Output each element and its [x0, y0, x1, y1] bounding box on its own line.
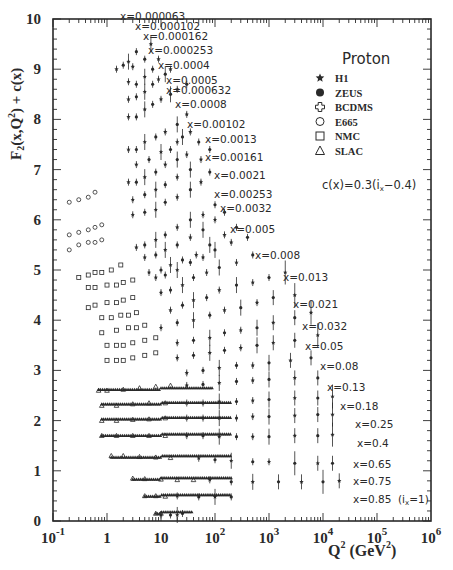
zeus-point — [201, 369, 204, 372]
nmc-point — [143, 338, 147, 342]
series-label: x=0.008 — [255, 249, 300, 261]
zeus-point — [251, 253, 254, 256]
nmc-point — [109, 268, 113, 272]
legend-label: NMC — [335, 131, 360, 142]
zeus-point — [181, 135, 184, 138]
zeus-point — [213, 248, 216, 251]
zeus-point — [246, 236, 249, 239]
zeus-point — [235, 283, 238, 286]
zeus-point — [147, 158, 150, 161]
zeus-point — [151, 68, 154, 71]
x-tick-label: 102 — [205, 525, 226, 546]
series-label: x=0.05 — [305, 340, 343, 352]
zeus-point — [151, 103, 154, 106]
zeus-point — [122, 64, 125, 67]
nmc-point — [154, 351, 158, 355]
legend: ProtonH1ZEUSBCDMSE665NMCSLACc(x)=0.3(ix−… — [316, 50, 417, 193]
zeus-point — [135, 148, 138, 151]
series-label: x=0.00161 — [205, 151, 263, 163]
e665-point — [86, 195, 90, 199]
zeus-point — [277, 480, 280, 483]
y-tick-label: 0 — [34, 513, 42, 529]
nmc-point — [134, 326, 138, 330]
zeus-point — [197, 140, 200, 143]
zeus-point — [267, 276, 270, 279]
nmc-point — [134, 311, 138, 315]
legend-label: E665 — [335, 117, 358, 128]
zeus-point — [235, 380, 238, 383]
zeus-point — [176, 243, 179, 246]
zeus-point — [316, 376, 319, 379]
series-label: x=0.00253 — [214, 188, 272, 200]
series-label: x=0.13 — [327, 381, 365, 393]
e665-point — [86, 240, 90, 244]
series-label: x=0.0008 — [175, 98, 227, 110]
nmc-point — [93, 271, 97, 275]
series-label: x=0.0021 — [214, 169, 266, 181]
x-axis-title: Q2 (GeV2) — [328, 539, 396, 560]
zeus-point — [321, 480, 324, 483]
zeus-point — [135, 115, 138, 118]
series-label: x=0.000162 — [143, 30, 208, 42]
nmc-point — [115, 301, 119, 305]
zeus-point — [135, 95, 138, 98]
zeus-point — [164, 183, 167, 186]
nmc-point — [131, 356, 135, 360]
series-label: x=0.0032 — [220, 202, 272, 214]
zeus-point — [143, 58, 146, 61]
e665-point — [93, 190, 97, 194]
nmc-point — [143, 323, 147, 327]
series-label: x=0.005 — [230, 223, 275, 235]
zeus-point — [205, 296, 208, 299]
legend-label: BCDMS — [335, 102, 373, 113]
x-tick-label: 10 — [154, 530, 169, 546]
nmc-point — [143, 353, 147, 357]
zeus-point — [189, 218, 192, 221]
zeus-point — [135, 83, 138, 86]
slac-point — [153, 384, 158, 388]
zeus-point — [189, 168, 192, 171]
nmc-point — [86, 273, 90, 277]
e665-point — [100, 238, 104, 242]
zeus-point — [154, 135, 157, 138]
zeus-point — [230, 480, 233, 483]
offset-annotation: c(x)=0.3(ix−0.4) — [322, 178, 416, 193]
series-label: x=0.18 — [340, 400, 378, 412]
nmc-point — [126, 313, 130, 317]
zeus-point — [255, 326, 258, 329]
nmc-point — [77, 276, 81, 280]
nmc-point — [105, 358, 109, 362]
zeus-point — [223, 331, 226, 334]
nmc-point — [100, 331, 104, 335]
zeus-point — [255, 344, 258, 347]
zeus-point — [239, 306, 242, 309]
nmc-point — [121, 298, 125, 302]
e665-point — [77, 198, 81, 202]
zeus-point — [169, 513, 172, 516]
zeus-point — [176, 123, 179, 126]
nmc-point — [115, 343, 119, 347]
zeus-point — [293, 316, 296, 319]
legend-label: H1 — [335, 73, 348, 84]
zeus-point — [135, 181, 138, 184]
zeus-point — [169, 148, 172, 151]
series-label: x=0.25 — [355, 418, 393, 430]
y-tick-label: 1 — [34, 463, 42, 479]
nmc-point — [115, 328, 119, 332]
zeus-point — [154, 253, 157, 256]
series-label: x=0.013 — [283, 271, 328, 283]
zeus-point — [235, 400, 238, 403]
legend-e665-icon — [316, 118, 324, 126]
y-axis-title: F2(x,Q2) + c(x) — [6, 68, 26, 160]
zeus-point — [201, 228, 204, 231]
nmc-point — [105, 283, 109, 287]
zeus-point — [267, 378, 270, 381]
y-tick-label: 6 — [34, 212, 42, 228]
y-tick-label: 4 — [34, 312, 42, 328]
legend-label: ZEUS — [335, 88, 363, 99]
y-tick-label: 10 — [26, 11, 41, 27]
x-tick-label: 1 — [103, 530, 111, 546]
nmc-point — [121, 343, 125, 347]
zeus-point — [143, 243, 146, 246]
zeus-point — [213, 203, 216, 206]
